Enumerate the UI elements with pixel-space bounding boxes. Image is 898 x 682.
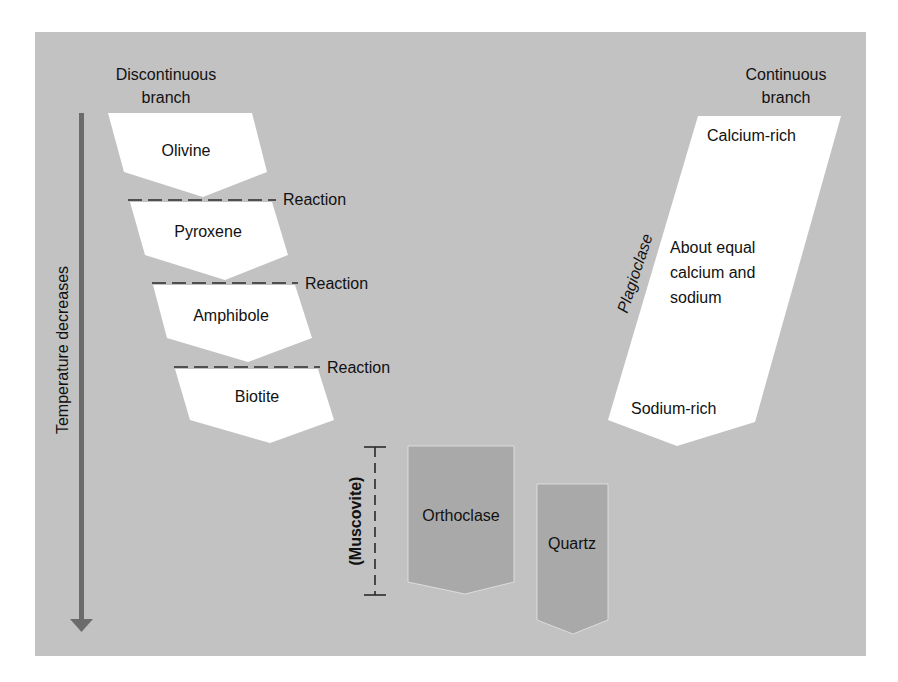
reaction-label-2: Reaction [305, 275, 368, 292]
biotite-label: Biotite [235, 388, 280, 405]
temperature-axis-label: Temperature decreases [54, 266, 71, 434]
reaction-label-1: Reaction [283, 191, 346, 208]
continuous-branch-header-line2: branch [762, 89, 811, 106]
discontinuous-branch-header-line2: branch [142, 89, 191, 106]
discontinuous-branch-header-line1: Discontinuous [116, 66, 217, 83]
sodium-rich-label: Sodium-rich [631, 400, 716, 417]
orthoclase-label: Orthoclase [422, 507, 499, 524]
olivine-label: Olivine [162, 142, 211, 159]
about-equal-label-line3: sodium [670, 289, 722, 306]
about-equal-label-line1: About equal [670, 239, 755, 256]
quartz-label: Quartz [548, 535, 596, 552]
pyroxene-label: Pyroxene [174, 223, 242, 240]
calcium-rich-label: Calcium-rich [707, 127, 796, 144]
quartz-shape [537, 484, 608, 634]
reaction-label-3: Reaction [327, 359, 390, 376]
bowen-reaction-series-diagram: Discontinuous branch Continuous branch T… [0, 0, 898, 682]
about-equal-label-line2: calcium and [670, 264, 755, 281]
continuous-branch-header-line1: Continuous [746, 66, 827, 83]
muscovite-label: (Muscovite) [347, 477, 364, 566]
amphibole-label: Amphibole [193, 307, 269, 324]
